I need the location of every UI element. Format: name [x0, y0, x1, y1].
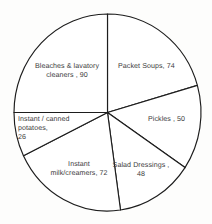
- pie-label-packet-soups: Packet Soups, 74: [118, 62, 190, 71]
- pie-label-instant-canned-potatoes: Instant / canned potatoes, 26: [18, 115, 76, 143]
- pie-chart: Packet Soups, 74 Pickles , 50 Salad Dres…: [0, 0, 212, 224]
- pie-label-instant-milk-creamers: Instant milk/creamers, 72: [42, 160, 116, 178]
- pie-label-bleaches-lavatory-cleaners: Bleaches & lavatory cleaners , 90: [26, 62, 108, 80]
- pie-chart-canvas: [0, 0, 212, 224]
- pie-slices: [14, 14, 201, 211]
- pie-label-pickles: Pickles , 50: [148, 115, 204, 124]
- pie-label-salad-dressings: Salad Dressings , 48: [110, 161, 172, 179]
